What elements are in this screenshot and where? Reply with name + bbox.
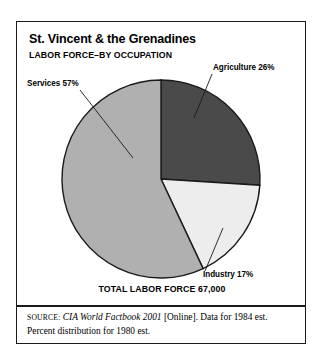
source-kicker: SOURCE:: [27, 313, 60, 322]
pie-label-industry: Industry 17%: [203, 269, 253, 279]
source-publication: CIA World Factbook 2001: [63, 312, 162, 322]
pie-label-services: Services 57%: [27, 78, 79, 88]
source-note: SOURCE: CIA World Factbook 2001 [Online]…: [27, 311, 297, 337]
pie-chart: Agriculture 26% Services 57% Industry 17…: [17, 22, 307, 345]
chart-card: St. Vincent & the Grenadines LABOR FORCE…: [16, 21, 306, 344]
source-divider: [17, 305, 306, 307]
pie-label-agriculture: Agriculture 26%: [213, 62, 275, 72]
pie-slice-agriculture-shape[interactable]: [161, 80, 260, 185]
total-labor-force-caption: TOTAL LABOR FORCE 67,000: [17, 284, 307, 294]
